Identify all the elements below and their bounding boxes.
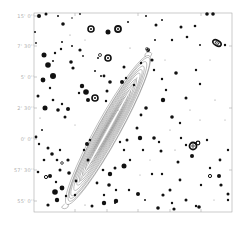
- y-axis-ticks: [34, 13, 232, 212]
- faint-sources: [39, 34, 225, 205]
- extended-objects: [44, 38, 222, 178]
- plot-frame: [34, 13, 232, 212]
- plot-area: [0, 0, 247, 225]
- star-field: [34, 12, 230, 210]
- galaxy-contours: [54, 47, 162, 215]
- contour-map-figure: 15' 0'' 7' 30'' 5' 0'' 2' 30'' 0' 0'' 57…: [0, 0, 247, 225]
